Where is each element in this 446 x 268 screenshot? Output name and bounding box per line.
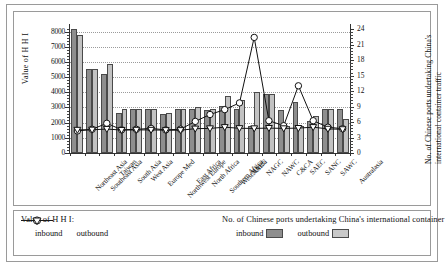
legend-outbound-line-label: outbound	[76, 229, 108, 238]
y-axis-right-minor-tick	[350, 57, 353, 58]
y-axis-right-minor-tick	[350, 42, 353, 43]
x-axis-tick	[262, 153, 263, 156]
y-axis-right-tick	[350, 29, 354, 30]
y-axis-right-tick-label: 15	[357, 72, 364, 79]
marker-inbound	[266, 118, 272, 124]
y-axis-right-minor-tick	[350, 63, 353, 64]
y-axis-right-minor-tick	[350, 38, 353, 39]
y-axis-right-minor-tick	[350, 150, 353, 151]
legend-inbound-bar-swatch	[266, 229, 283, 238]
y-axis-right-minor-tick	[350, 100, 353, 101]
figure-frame: Value of H H I 0100020003000400050006000…	[6, 4, 438, 262]
chart-panel: Value of H H I 0100020003000400050006000…	[13, 11, 431, 206]
y-axis-right: 03691215182124 No. of Chinese ports unde…	[350, 12, 432, 165]
y-axis-left-tick-label: 5000	[51, 73, 65, 80]
y-axis-right-tick-label: 24	[357, 25, 364, 32]
x-axis-tick	[321, 153, 322, 156]
y-axis-right-minor-tick	[350, 122, 353, 123]
x-axis-tick	[114, 153, 115, 156]
y-axis-right-tick-label: 9	[357, 103, 361, 110]
x-axis-tick	[276, 153, 277, 156]
legend-inbound-bar-label: inbound	[236, 229, 263, 238]
y-axis-right-minor-tick	[350, 119, 353, 120]
legend-outbound-line-marker	[21, 215, 53, 226]
x-axis-tick	[129, 153, 130, 156]
y-axis-right-minor-tick	[350, 79, 353, 80]
y-axis-left-title: Value of H H I	[21, 4, 30, 114]
y-axis-right-minor-tick	[350, 66, 353, 67]
y-axis-right-minor-tick	[350, 107, 353, 108]
y-axis-right-minor-tick	[350, 51, 353, 52]
x-axis-tick	[158, 153, 159, 156]
x-axis-tick	[70, 153, 71, 156]
y-axis-right-minor-tick	[350, 85, 353, 86]
legend-outbound-bar-label: outbound	[297, 229, 329, 238]
y-axis-right-minor-tick	[350, 144, 353, 145]
marker-inbound	[251, 34, 257, 40]
y-axis-right-minor-tick	[350, 97, 353, 98]
legend-left: Value of H H I: inbound outbound	[21, 215, 216, 238]
marker-inbound	[222, 106, 228, 112]
y-axis-right-minor-tick	[350, 69, 353, 70]
x-axis-label: SANC	[324, 158, 343, 177]
y-axis-right-tick	[350, 45, 354, 46]
y-axis-right-minor-tick	[350, 134, 353, 135]
y-axis-right-minor-tick	[350, 125, 353, 126]
x-axis-tick	[188, 153, 189, 156]
legend-right: No. of Chinese ports undertaking China's…	[222, 215, 427, 238]
y-axis-right-tick-label: 6	[357, 118, 361, 125]
x-axis-tick	[99, 153, 100, 156]
x-axis-tick	[306, 153, 307, 156]
marker-inbound	[236, 100, 242, 106]
y-axis-right-tick-label: 3	[357, 134, 361, 141]
y-axis-right-minor-tick	[350, 141, 353, 142]
y-axis-left: Value of H H I 0100020003000400050006000…	[14, 12, 69, 165]
x-axis-tick	[173, 153, 174, 156]
x-axis-tick	[217, 153, 218, 156]
marker-inbound	[295, 83, 301, 89]
y-axis-left-tick-label: 2000	[51, 119, 65, 126]
y-axis-right-minor-tick	[350, 76, 353, 77]
legend-right-entries: inbound outbound	[222, 229, 427, 238]
x-axis-tick	[85, 153, 86, 156]
x-axis-tick	[232, 153, 233, 156]
y-axis-right-tick	[350, 60, 354, 61]
x-axis-tick	[291, 153, 292, 156]
y-axis-left-tick-label: 6000	[51, 58, 65, 65]
marker-inbound	[207, 111, 213, 117]
x-axis-tick	[144, 153, 145, 156]
legend-outbound-bar-swatch	[332, 229, 349, 238]
y-axis-left-tick-label: 1000	[51, 134, 65, 141]
legend-panel: Value of H H I: inbound outbound No. of …	[13, 210, 431, 256]
y-axis-right-minor-tick	[350, 131, 353, 132]
y-axis-right-tick-label: 21	[357, 41, 364, 48]
y-axis-right-minor-tick	[350, 82, 353, 83]
y-axis-left-tick-label: 4000	[51, 89, 65, 96]
y-axis-left-tick-label: 7000	[51, 43, 65, 50]
legend-left-entries: inbound outbound	[21, 229, 216, 238]
x-axis-tick	[203, 153, 204, 156]
y-axis-right-minor-tick	[350, 54, 353, 55]
y-axis-right-minor-tick	[350, 128, 353, 129]
y-axis-right-minor-tick	[350, 73, 353, 74]
x-axis-tick	[335, 153, 336, 156]
y-axis-right-minor-tick	[350, 32, 353, 33]
y-axis-right-tick	[350, 153, 354, 154]
y-axis-right-minor-tick	[350, 94, 353, 95]
legend-right-title: No. of Chinese ports undertaking China's…	[222, 215, 427, 224]
y-axis-right-minor-tick	[350, 116, 353, 117]
y-axis-left-tick-label: 3000	[51, 104, 65, 111]
y-axis-right-minor-tick	[350, 35, 353, 36]
y-axis-right-minor-tick	[350, 147, 353, 148]
y-axis-right-tick-label: 12	[357, 87, 364, 94]
marker-inbound	[192, 118, 198, 124]
legend-inbound-line-label: inbound	[35, 229, 62, 238]
y-axis-right-minor-tick	[350, 103, 353, 104]
line-series-group	[70, 24, 350, 153]
y-axis-left-tick-label: 8000	[51, 28, 65, 35]
y-axis-right-tick-label: 18	[357, 56, 364, 63]
y-axis-right-title: No. of Chinese ports undertaking China's…	[424, 14, 443, 164]
y-axis-right-tick	[350, 138, 354, 139]
plot-area: Northeast AsiaSoutheast AsiaTaiwanSouth …	[69, 24, 351, 154]
y-axis-right-minor-tick	[350, 110, 353, 111]
